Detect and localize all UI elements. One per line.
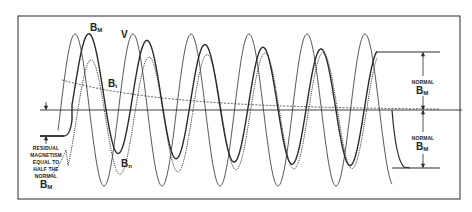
label-normal-lower-b-m: BM — [416, 142, 428, 152]
label-b-m-top: BM — [90, 23, 102, 33]
residual-magnetism-note: RESIDUAL MAGNETISM EQUAL TO HALF THE NOR… — [28, 146, 64, 179]
magnetization-waveform-diagram — [0, 0, 472, 212]
residual-arrow-icon — [45, 102, 48, 144]
label-normal-upper-b-m: BM — [416, 86, 428, 96]
label-b-n: Bn — [121, 159, 132, 169]
diagram-frame — [18, 16, 460, 199]
label-b-t: Bt — [108, 79, 117, 89]
label-v: V — [121, 30, 128, 40]
label-residual-b-m: BM — [40, 180, 52, 190]
flux-curve-b-m — [40, 34, 377, 166]
transient-curve-b-t — [62, 80, 440, 109]
